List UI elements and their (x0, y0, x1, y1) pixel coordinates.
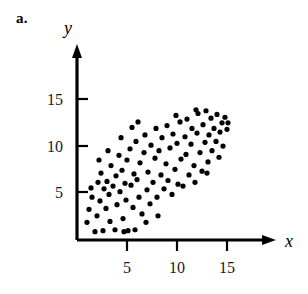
data-point (84, 220, 89, 225)
data-point (205, 159, 210, 164)
data-point (123, 197, 128, 202)
data-point (175, 182, 180, 187)
data-point (130, 205, 135, 210)
data-point (193, 107, 198, 112)
data-point (183, 152, 188, 157)
data-point (161, 186, 166, 191)
data-point (124, 157, 129, 162)
data-point (186, 172, 191, 177)
data-point (202, 140, 207, 145)
data-point (139, 211, 144, 216)
data-point (121, 229, 126, 234)
data-point (101, 186, 106, 191)
data-point (222, 115, 227, 120)
x-axis-ticks (127, 240, 227, 251)
data-point (180, 183, 185, 188)
data-point (182, 134, 187, 139)
data-point (164, 123, 169, 128)
data-point (131, 171, 136, 176)
data-point (147, 201, 152, 206)
data-point (96, 157, 101, 162)
x-axis-label: x (284, 231, 293, 251)
data-point (219, 120, 224, 125)
data-point (145, 170, 150, 175)
data-point (108, 163, 113, 168)
data-point (216, 155, 221, 160)
data-point (177, 119, 182, 124)
data-point (97, 198, 102, 203)
data-point (184, 117, 189, 122)
y-axis-label: y (62, 18, 72, 38)
data-point (113, 173, 118, 178)
data-point (95, 180, 100, 185)
data-point (204, 170, 209, 175)
data-point (94, 213, 99, 218)
y-tick-label-5: 5 (55, 184, 63, 201)
data-point (167, 145, 172, 150)
data-point (158, 172, 163, 177)
data-point (119, 168, 124, 173)
data-point (172, 167, 177, 172)
y-axis-ticks (77, 99, 88, 192)
data-point (169, 192, 174, 197)
data-point (213, 139, 218, 144)
plot-canvas: 5 10 15 5 10 15 y x (0, 0, 308, 294)
data-point (170, 131, 175, 136)
data-point (163, 161, 168, 166)
data-point (150, 180, 155, 185)
data-point (88, 185, 93, 190)
data-point (155, 213, 160, 218)
data-point (220, 143, 225, 148)
x-tick-label-10: 10 (169, 259, 185, 276)
data-point (208, 116, 213, 121)
x-tick-label-15: 15 (219, 259, 235, 276)
data-point (129, 125, 134, 130)
data-point (188, 142, 193, 147)
data-point (225, 120, 230, 125)
data-point (135, 119, 140, 124)
data-point (141, 150, 146, 155)
data-point (192, 180, 197, 185)
data-point (143, 220, 148, 225)
data-point (203, 108, 208, 113)
data-point (174, 141, 179, 146)
scatter-points-group (84, 107, 230, 234)
data-point (144, 187, 149, 192)
data-point (173, 113, 178, 118)
data-point (106, 192, 111, 197)
x-tick-label-5: 5 (123, 259, 131, 276)
data-point (136, 195, 141, 200)
data-point (178, 156, 183, 161)
data-point (118, 135, 123, 140)
y-tick-label-10: 10 (47, 138, 63, 155)
data-point (189, 126, 194, 131)
data-point (153, 126, 158, 131)
data-point (165, 178, 170, 183)
y-tick-label-15: 15 (47, 91, 63, 108)
data-point (110, 183, 115, 188)
data-point (214, 112, 219, 117)
data-point (114, 202, 119, 207)
data-point (211, 126, 216, 131)
data-point (197, 150, 202, 155)
data-point (224, 127, 229, 132)
data-point (133, 139, 138, 144)
data-point (199, 169, 204, 174)
data-point (200, 122, 205, 127)
data-point (159, 135, 164, 140)
data-point (107, 219, 112, 224)
data-point (132, 227, 137, 232)
data-point (194, 130, 199, 135)
data-point (117, 189, 122, 194)
data-point (191, 163, 196, 168)
data-point (134, 177, 139, 182)
x-axis-arrow-icon (262, 235, 276, 245)
data-point (122, 181, 127, 186)
data-point (98, 170, 103, 175)
data-point (116, 153, 121, 158)
data-point (103, 206, 108, 211)
data-point (86, 207, 91, 212)
data-point (209, 148, 214, 153)
data-point (92, 229, 97, 234)
data-point (142, 132, 147, 137)
